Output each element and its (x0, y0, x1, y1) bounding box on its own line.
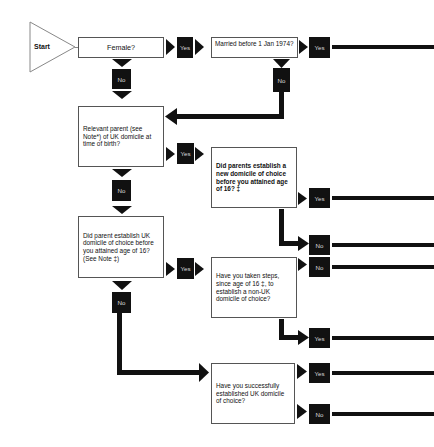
yes-label: Yes (177, 258, 194, 279)
arrow-right-icon (298, 192, 308, 205)
connector (117, 370, 201, 375)
yes-label: Yes (177, 37, 193, 58)
arrow-right-icon (166, 39, 176, 55)
offpage-connector (332, 371, 434, 375)
no-label: No (309, 404, 330, 424)
arrow-down-icon (112, 59, 132, 67)
offpage-connector (332, 336, 434, 340)
arrow-down-icon (112, 169, 132, 177)
yes-label: Yes (177, 143, 194, 164)
arrow-down-icon (112, 91, 132, 99)
node-successfully-established: Have you successfully established UK dom… (211, 363, 295, 424)
arrow-down-icon (273, 59, 290, 68)
arrow-right-icon (298, 330, 309, 345)
offpage-connector (332, 45, 434, 49)
no-label: No (273, 68, 290, 92)
offpage-connector (332, 243, 434, 247)
arrow-right-icon (195, 147, 205, 161)
node-relevant-parent: Relevant parent (see Note*) of UK domici… (78, 106, 164, 167)
no-label: No (112, 69, 131, 89)
start-label: Start (34, 43, 50, 50)
no-label: No (112, 292, 131, 313)
yes-label: Yes (309, 328, 330, 348)
arrow-right-icon (298, 258, 308, 271)
offpage-connector (332, 196, 434, 200)
connector (176, 114, 284, 119)
node-parent-uk-domicile: Did parent establish UK domicile of choi… (78, 216, 164, 278)
yes-label: Yes (309, 37, 330, 58)
arrow-right-icon (195, 39, 205, 55)
no-label: No (309, 235, 330, 255)
arrow-right-icon (195, 262, 205, 276)
no-label: No (112, 180, 131, 201)
offpage-connector (332, 265, 434, 269)
arrow-right-icon (199, 363, 209, 382)
arrow-right-icon (166, 262, 176, 276)
offpage-connector (332, 412, 434, 416)
arrow-right-icon (166, 147, 176, 161)
arrow-right-icon (299, 40, 309, 54)
connector (117, 313, 122, 375)
node-married: Married before 1 Jan 1974? (211, 37, 298, 58)
arrow-left-icon (165, 108, 177, 125)
node-taken-steps: Have you taken steps, since age of 16 ‡,… (211, 257, 297, 318)
arrow-down-icon (112, 206, 132, 214)
connector (279, 209, 284, 245)
arrow-right-icon (298, 236, 309, 251)
arrow-down-icon (112, 281, 132, 290)
arrow-right-icon (297, 404, 307, 419)
no-label: No (309, 257, 330, 277)
yes-label: Yes (309, 363, 330, 383)
arrow-right-icon (297, 364, 307, 379)
node-female: Female? (78, 37, 164, 58)
yes-label: Yes (309, 188, 330, 208)
node-parents-new-domicile: Did parents establish a new domicile of … (211, 147, 297, 208)
